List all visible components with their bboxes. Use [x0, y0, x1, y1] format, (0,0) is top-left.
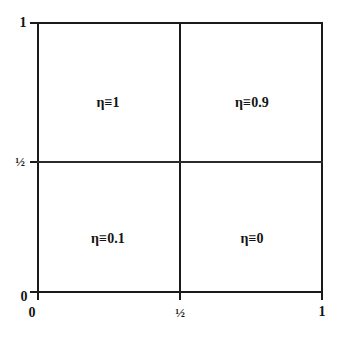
x-tick-1	[321, 293, 323, 300]
divider-vertical-half	[179, 22, 181, 293]
quadrant-label-top-right: η≡0.9	[235, 95, 269, 111]
quadrant-label-bottom-right: η≡0	[240, 231, 263, 247]
x-axis-label-half: ½	[175, 305, 185, 321]
figure-canvas: η≡1 η≡0.9 η≡0.1 η≡0 1 ½ 0 0 ½ 1	[0, 0, 342, 347]
y-tick-half	[30, 161, 37, 163]
x-axis-label-1: 1	[319, 304, 326, 320]
y-tick-0	[30, 291, 37, 293]
x-tick-0	[37, 293, 39, 300]
quadrant-label-top-left: η≡1	[96, 95, 119, 111]
y-axis-label-0: 0	[21, 289, 28, 305]
x-axis-label-0: 0	[29, 305, 36, 321]
quadrant-label-bottom-left: η≡0.1	[91, 231, 125, 247]
y-axis-label-half: ½	[15, 154, 25, 170]
x-tick-half	[179, 293, 181, 300]
y-axis-label-1: 1	[20, 15, 27, 31]
y-tick-1	[30, 22, 37, 24]
divider-horizontal-half	[37, 161, 323, 163]
